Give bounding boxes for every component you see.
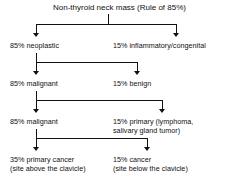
flowchart-canvas: Non-thyroid neck mass (Rule of 85%) 85% … <box>0 0 239 183</box>
node-primary-lymphoma: 15% primary (lymphoma, salivary gland tu… <box>113 118 193 135</box>
node-neoplastic: 85% neoplastic <box>10 42 59 51</box>
arrow-4-left <box>33 147 39 151</box>
arrow-1-left <box>33 33 39 37</box>
node-benign: 15% benign <box>113 80 151 89</box>
connector-vline-1-right <box>176 24 177 33</box>
connector-stem-title <box>108 14 109 24</box>
node-cancer-below-clavicle-line1: 15% cancer <box>113 155 151 164</box>
node-inflammatory-congenital: 15% inflammatory/congenital <box>113 42 206 51</box>
node-primary-lymphoma-line1: 15% primary (lymphoma, <box>113 117 193 126</box>
node-primary-cancer-line2: (site above the clavicle) <box>10 165 86 174</box>
connector-hline-3 <box>36 100 163 101</box>
arrow-3-left <box>33 109 39 113</box>
node-cancer-below-clavicle-line2: (site below the clavicle) <box>113 165 188 174</box>
connector-stem-3 <box>36 91 37 100</box>
node-primary-cancer: 35% primary cancer (site above the clavi… <box>10 156 86 173</box>
connector-vline-3-right <box>162 100 163 109</box>
arrow-3-right <box>159 109 165 113</box>
connector-vline-2-left <box>36 62 37 71</box>
arrow-2-right <box>134 71 140 75</box>
connector-hline-1 <box>36 24 177 25</box>
node-primary-cancer-line1: 35% primary cancer <box>10 155 74 164</box>
node-malignant-1: 85% malignant <box>10 80 58 89</box>
node-primary-lymphoma-line2: salivary gland tumor) <box>113 127 193 136</box>
page-title: Non-thyroid neck mass (Rule of 85%) <box>0 3 239 12</box>
connector-vline-4-right <box>147 138 148 147</box>
connector-stem-2 <box>36 53 37 62</box>
connector-vline-4-left <box>36 138 37 147</box>
arrow-1-right <box>173 33 179 37</box>
arrow-4-right <box>144 147 150 151</box>
connector-vline-3-left <box>36 100 37 109</box>
connector-hline-2 <box>36 62 138 63</box>
connector-vline-2-right <box>137 62 138 71</box>
connector-vline-1-left <box>36 24 37 33</box>
node-malignant-2: 85% malignant <box>10 118 58 127</box>
node-cancer-below-clavicle: 15% cancer (site below the clavicle) <box>113 156 188 173</box>
arrow-2-left <box>33 71 39 75</box>
connector-hline-4 <box>36 138 148 139</box>
connector-stem-4 <box>36 129 37 138</box>
